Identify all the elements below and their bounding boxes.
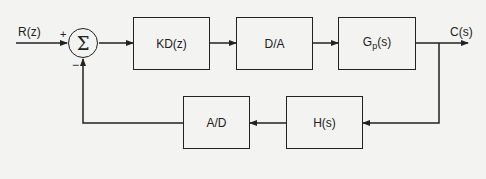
controller-block: KD(z)	[133, 17, 210, 70]
plus-sign: +	[60, 29, 66, 40]
sensor-block: H(s)	[286, 96, 363, 149]
adc-label: A/D	[206, 116, 226, 130]
input-label: R(z)	[18, 26, 41, 38]
plant-label: Gp(s)	[363, 35, 391, 51]
plant-block: Gp(s)	[338, 17, 416, 70]
controller-label: KD(z)	[156, 37, 187, 51]
plant-label-tail: (s)	[377, 35, 391, 49]
sigma-icon: Σ	[77, 33, 90, 54]
summing-junction: Σ	[68, 28, 98, 58]
output-label: C(s)	[450, 26, 473, 38]
minus-sign: −	[72, 59, 79, 71]
sensor-label: H(s)	[313, 116, 336, 130]
adc-block: A/D	[183, 96, 250, 149]
plant-label-main: G	[363, 35, 372, 49]
block-diagram: R(z) + − Σ KD(z) D/A Gp(s) C(s) A/D H(s)	[0, 0, 486, 179]
dac-block: D/A	[236, 17, 313, 70]
dac-label: D/A	[264, 37, 284, 51]
